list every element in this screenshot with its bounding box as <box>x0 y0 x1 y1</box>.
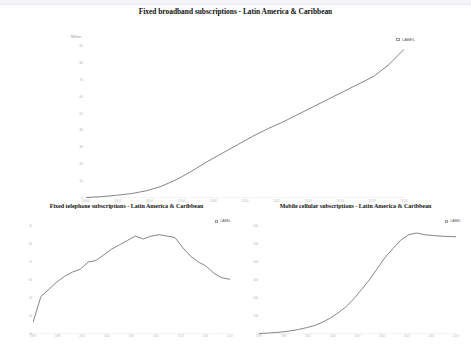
legend-mobile[interactable]: LABEL <box>445 219 461 223</box>
y-axis-tick-label: 600 <box>247 224 258 228</box>
line-chart-broadband <box>86 46 404 198</box>
x-axis-tick-label: 1995 <box>252 335 266 338</box>
y-axis-tick-label: 40 <box>21 314 32 318</box>
x-axis-tick-label: 1998 <box>51 335 65 338</box>
legend-label: LABEL <box>450 219 461 223</box>
x-axis-tick-label: 2010 <box>375 335 389 338</box>
line-chart-telephone <box>33 226 230 334</box>
chart-panel-mobile: Mobile cellular subscriptions - Latin Am… <box>240 203 471 350</box>
y-axis-tick-label: 10 <box>71 179 83 183</box>
x-axis-tick-label: 2013 <box>174 335 188 338</box>
y-axis-tick-label: 30 <box>71 145 83 149</box>
y-axis-tick-label: 90 <box>71 44 83 48</box>
y-axis-tick-label: 200 <box>247 296 258 300</box>
x-axis-tick-label: 2016 <box>198 335 212 338</box>
y-axis-tick-label: 20 <box>71 162 83 166</box>
y-axis-tick-label: 80 <box>71 61 83 65</box>
plot-area-broadband <box>86 46 404 198</box>
y-axis-tick-label: 50 <box>71 112 83 116</box>
y-axis-tick-label: 70 <box>21 260 32 264</box>
chart-panel-telephone: Fixed telephone subscriptions - Latin Am… <box>14 203 239 350</box>
x-axis-tick-label: 2001 <box>301 335 315 338</box>
data-series-line <box>33 235 230 323</box>
page-title-broadband: Fixed broadband subscriptions - Latin Am… <box>0 8 471 16</box>
x-axis-tick-label: 2001 <box>75 335 89 338</box>
y-axis-tick-label: 400 <box>247 260 258 264</box>
page-title-mobile: Mobile cellular subscriptions - Latin Am… <box>240 203 471 210</box>
legend-broadband[interactable]: LABEL <box>396 37 415 42</box>
legend-telephone[interactable]: LABEL <box>215 219 231 223</box>
checkbox-icon[interactable] <box>396 38 400 42</box>
data-series-line <box>86 49 404 197</box>
plot-area-mobile <box>259 226 456 334</box>
y-axis-tick-label: 90 <box>21 224 32 228</box>
x-axis-tick-label: 1995 <box>26 335 40 338</box>
y-axis-tick-label: 500 <box>247 242 258 246</box>
data-series-line <box>259 233 456 334</box>
y-axis-tick-label: 40 <box>71 128 83 132</box>
y-axis-tick-label: 70 <box>71 78 83 82</box>
x-axis-tick-label: 2010 <box>149 335 163 338</box>
dashboard-page: Fixed broadband subscriptions - Latin Am… <box>0 0 471 350</box>
window-top-band <box>0 0 471 5</box>
x-axis-tick-label: 1998 <box>277 335 291 338</box>
x-axis-tick-label: 2016 <box>424 335 438 338</box>
x-axis-tick-label: 2004 <box>100 335 114 338</box>
checkbox-icon[interactable] <box>445 220 448 223</box>
x-axis-tick-label: 2007 <box>351 335 365 338</box>
line-chart-mobile <box>259 226 456 334</box>
x-axis-tick-label: 2004 <box>326 335 340 338</box>
legend-label: LABEL <box>402 37 415 42</box>
y-axis-tick-label: 100 <box>247 314 258 318</box>
checkbox-icon[interactable] <box>215 220 218 223</box>
x-axis-tick-label: 2013 <box>400 335 414 338</box>
x-axis-tick-label: 2007 <box>125 335 139 338</box>
y-axis-tick-label: 60 <box>71 95 83 99</box>
y-axis-tick-label: 80 <box>21 242 32 246</box>
x-axis-tick-label: 2019 <box>223 335 237 338</box>
legend-label: LABEL <box>220 219 231 223</box>
y-axis-tick-label: 60 <box>21 278 32 282</box>
x-axis-tick-label: 2019 <box>449 335 463 338</box>
y-axis-tick-label: 300 <box>247 278 258 282</box>
y-axis-tick-label: 50 <box>21 296 32 300</box>
plot-area-telephone <box>33 226 230 334</box>
y-axis-label-broadband: Million <box>71 35 81 39</box>
chart-panel-broadband: Fixed broadband subscriptions - Latin Am… <box>0 8 471 200</box>
page-title-telephone: Fixed telephone subscriptions - Latin Am… <box>14 203 239 210</box>
